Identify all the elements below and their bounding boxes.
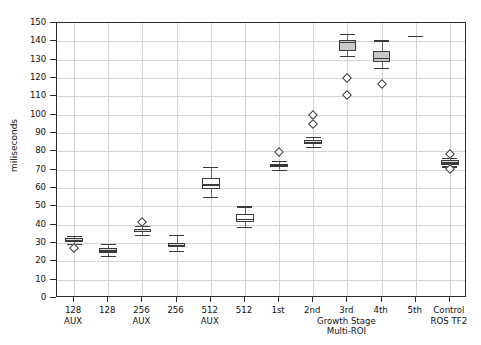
y-tick-label: 0 — [20, 292, 46, 302]
x-tick-label: 4th — [373, 305, 387, 315]
y-tick-label: 110 — [20, 90, 46, 100]
y-tick-label: 120 — [20, 72, 46, 82]
y-axis-label: miliseconds — [9, 119, 19, 172]
x-tick-mark — [449, 297, 450, 302]
x-tick-mark — [244, 297, 245, 302]
plot-area — [56, 22, 466, 297]
x-tick-mark — [278, 297, 279, 302]
boxplot-figure: miliseconds 0102030405060708090100110120… — [0, 0, 481, 345]
y-tick-label: 30 — [20, 237, 46, 247]
x-tick-label: 256 — [133, 305, 149, 315]
x-group-label: ROS TF2 — [431, 316, 468, 326]
y-tick-label: 60 — [20, 182, 46, 192]
y-tick-label: 140 — [20, 35, 46, 45]
x-tick-label: Control — [433, 305, 464, 315]
x-tick-label: 1st — [271, 305, 284, 315]
x-group-label: AUX — [201, 316, 219, 326]
outlier-marker — [445, 164, 455, 174]
x-tick-mark — [176, 297, 177, 302]
x-tick-label: 512 — [202, 305, 218, 315]
x-tick-mark — [415, 297, 416, 302]
x-tick-label: 128 — [65, 305, 81, 315]
x-tick-label: 256 — [167, 305, 183, 315]
x-tick-mark — [107, 297, 108, 302]
y-tick-label: 50 — [20, 200, 46, 210]
y-tick-label: 80 — [20, 145, 46, 155]
x-group-label: AUX — [132, 316, 150, 326]
x-tick-label: 3rd — [339, 305, 353, 315]
x-tick-label: 5th — [408, 305, 422, 315]
x-tick-mark — [73, 297, 74, 302]
x-tick-label: 128 — [99, 305, 115, 315]
y-tick-label: 40 — [20, 219, 46, 229]
y-tick-label: 130 — [20, 54, 46, 64]
x-tick-mark — [312, 297, 313, 302]
y-tick-label: 20 — [20, 255, 46, 265]
x-group-label: Multi-ROI — [327, 326, 366, 336]
x-tick-label: 2nd — [304, 305, 320, 315]
x-tick-mark — [141, 297, 142, 302]
y-tick-label: 70 — [20, 164, 46, 174]
x-tick-mark — [210, 297, 211, 302]
x-tick-label: 512 — [236, 305, 252, 315]
y-tick-label: 10 — [20, 274, 46, 284]
y-tick-label: 150 — [20, 17, 46, 27]
x-tick-mark — [381, 297, 382, 302]
y-tick-label: 100 — [20, 109, 46, 119]
x-group-label: Growth Stage — [317, 316, 376, 326]
y-tick-label: 90 — [20, 127, 46, 137]
x-tick-mark — [346, 297, 347, 302]
x-group-label: AUX — [64, 316, 82, 326]
box-plot-item[interactable] — [57, 23, 465, 296]
y-tick-mark — [50, 297, 56, 298]
